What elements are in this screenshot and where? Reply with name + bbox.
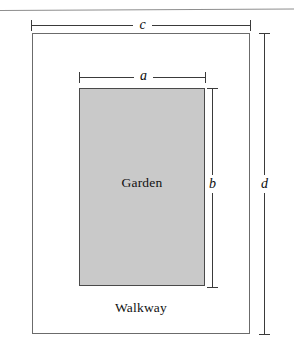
dimension-b-tick-top: [207, 88, 218, 89]
dimension-c-tick-right: [250, 20, 251, 31]
dimension-d-tick-top: [259, 33, 270, 34]
dimension-b-label: b: [206, 175, 219, 193]
walkway-label: Walkway: [32, 300, 250, 316]
dimension-a-tick-right: [205, 72, 206, 83]
dimension-d-label: d: [258, 175, 271, 193]
dimension-c-tick-left: [31, 20, 32, 31]
page-rule-line: [0, 9, 294, 11]
dimension-c-label: c: [133, 18, 152, 32]
dimension-a-label: a: [134, 69, 153, 83]
dimension-d-tick-bottom: [259, 334, 270, 335]
dimension-b-tick-bottom: [207, 287, 218, 288]
garden-walkway-figure: Garden Walkway c a b d: [0, 0, 294, 355]
garden-label: Garden: [79, 175, 205, 191]
dimension-a-tick-left: [79, 72, 80, 83]
